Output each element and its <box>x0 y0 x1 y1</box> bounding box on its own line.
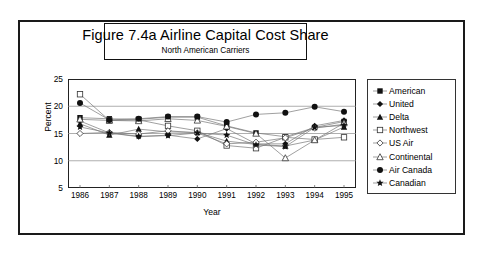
figure-title-box: Figure 7.4a Airline Capital Cost Share N… <box>104 23 307 60</box>
legend-item-continental[interactable]: Continental <box>372 150 455 163</box>
legend-item-air-canada[interactable]: Air Canada <box>372 163 455 176</box>
open-triangle-icon <box>372 151 388 163</box>
filled-square-icon <box>372 85 388 97</box>
y-tick-label: 15 <box>37 130 63 138</box>
x-axis-label: Year <box>0 207 424 217</box>
filled-diamond-icon <box>372 98 388 110</box>
open-square-icon <box>372 124 388 136</box>
chart-legend: AmericanUnitedDeltaNorthwestUS AirContin… <box>367 79 456 194</box>
chart-plot-area <box>68 79 356 188</box>
legend-item-canadian[interactable]: Canadian <box>372 176 455 189</box>
legend-item-label: Air Canada <box>388 165 432 175</box>
y-tick-label: 25 <box>37 75 63 83</box>
figure-root: Figure 7.4a Airline Capital Cost Share N… <box>0 0 482 257</box>
legend-item-american[interactable]: American <box>372 84 455 97</box>
legend-item-label: Delta <box>388 112 409 122</box>
filled-circle-icon <box>372 164 388 176</box>
legend-item-label: American <box>388 86 425 96</box>
y-tick-label: 5 <box>37 184 63 192</box>
legend-item-label: Canadian <box>388 178 426 188</box>
legend-item-label: United <box>388 99 414 109</box>
page-title: Figure 7.4a Airline Capital Cost Share <box>82 28 328 43</box>
legend-item-united[interactable]: United <box>372 97 455 110</box>
filled-star-icon <box>372 177 388 189</box>
legend-item-label: Continental <box>388 152 432 162</box>
open-diamond-icon <box>372 137 388 149</box>
x-tick-label: 1995 <box>327 192 361 200</box>
y-tick-label: 20 <box>37 102 63 110</box>
legend-item-label: Northwest <box>388 125 428 135</box>
legend-item-northwest[interactable]: Northwest <box>372 124 455 137</box>
legend-item-label: US Air <box>388 138 413 148</box>
legend-item-us-air[interactable]: US Air <box>372 137 455 150</box>
legend-item-delta[interactable]: Delta <box>372 110 455 123</box>
filled-triangle-icon <box>372 111 388 123</box>
page-subtitle: North American Carriers <box>162 46 250 55</box>
y-tick-label: 10 <box>37 157 63 165</box>
